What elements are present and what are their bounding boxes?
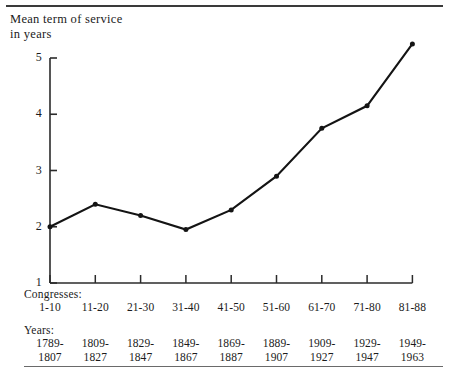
year-range-label: 1789- 1807	[26, 337, 74, 364]
data-point	[274, 174, 279, 179]
congress-label: 61-70	[300, 301, 344, 315]
data-point	[410, 41, 415, 46]
congress-label: 51-60	[255, 301, 299, 315]
year-range-label: 1889- 1907	[253, 337, 301, 364]
y-tick-label: 2	[26, 219, 42, 234]
years-heading: Years:	[24, 324, 54, 336]
y-tick-label: 5	[26, 50, 42, 65]
year-range-label: 1869- 1887	[207, 337, 255, 364]
line-chart-plot	[0, 0, 449, 375]
congress-label: 31-40	[164, 301, 208, 315]
year-range-label: 1949- 1963	[388, 337, 436, 364]
year-range-label: 1929- 1947	[343, 337, 391, 364]
y-axis	[50, 58, 57, 283]
data-point	[365, 103, 370, 108]
congress-label: 81-88	[390, 301, 434, 315]
data-point	[229, 207, 234, 212]
data-point	[138, 213, 143, 218]
congresses-heading: Congresses:	[24, 288, 82, 300]
data-line	[50, 44, 412, 230]
congress-label: 71-80	[345, 301, 389, 315]
x-axis	[50, 275, 412, 283]
data-point	[319, 126, 324, 131]
figure-container: Mean term of service in years 12345 Cong…	[0, 0, 449, 375]
congress-label: 1-10	[28, 301, 72, 315]
data-point	[183, 227, 188, 232]
data-point-markers	[48, 41, 415, 232]
congress-label: 21-30	[119, 301, 163, 315]
year-range-label: 1829- 1847	[117, 337, 165, 364]
year-range-label: 1849- 1867	[162, 337, 210, 364]
y-tick-label: 4	[26, 106, 42, 121]
y-tick-label: 3	[26, 163, 42, 178]
year-range-label: 1809- 1827	[71, 337, 119, 364]
year-range-label: 1909- 1927	[298, 337, 346, 364]
congress-label: 41-50	[209, 301, 253, 315]
bottom-rule	[24, 366, 443, 367]
congress-label: 11-20	[73, 301, 117, 315]
data-point	[48, 224, 53, 229]
data-point	[93, 202, 98, 207]
